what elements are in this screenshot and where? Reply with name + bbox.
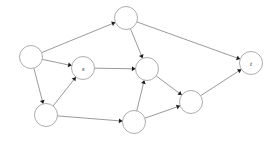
graph-edge	[42, 22, 116, 52]
graph-edge	[137, 22, 240, 59]
directed-graph-figure: st	[0, 0, 278, 145]
graph-node	[136, 58, 159, 81]
graph-node	[180, 91, 203, 114]
edge-arrowhead-icon	[119, 118, 123, 123]
edge-arrowhead-icon	[72, 77, 76, 81]
graph-edge	[156, 76, 182, 95]
graph-edge	[42, 59, 72, 65]
edge-arrowhead-icon	[132, 66, 136, 71]
edge-arrowhead-icon	[40, 100, 45, 104]
edge-arrowhead-icon	[68, 63, 72, 68]
graph-edge	[137, 80, 145, 111]
nodes-layer: st	[20, 7, 263, 134]
edge-arrowhead-icon	[141, 80, 146, 84]
graph-edge	[145, 106, 180, 118]
graph-canvas: st	[0, 0, 278, 145]
graph-node	[20, 46, 43, 69]
graph-node	[115, 7, 138, 30]
graph-node	[123, 111, 146, 134]
graph-edge	[53, 77, 76, 106]
graph-edge	[201, 69, 242, 95]
graph-node	[35, 104, 58, 127]
graph-edge	[130, 29, 142, 59]
edge-arrowhead-icon	[177, 91, 181, 95]
graph-edge	[57, 116, 122, 121]
edge-arrowhead-icon	[237, 69, 241, 73]
graph-node-label: s	[82, 65, 85, 73]
graph-edge	[34, 68, 43, 104]
graph-edge	[95, 68, 136, 69]
